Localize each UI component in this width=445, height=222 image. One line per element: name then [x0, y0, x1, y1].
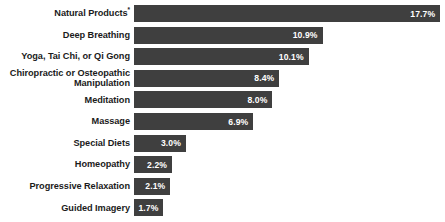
bar-category-label: Homeopathy [0, 159, 130, 169]
bar-row: Yoga, Tai Chi, or Qi Gong10.1% [0, 48, 445, 65]
bar-row: Special Diets3.0% [0, 135, 445, 152]
bar-track: 2.1% [134, 178, 170, 195]
bar-track: 17.7% [134, 5, 440, 22]
bar: 8.4% [134, 70, 279, 87]
bar: 17.7% [134, 5, 440, 22]
bar-category-label: Special Diets [0, 138, 130, 148]
bar-row: Guided Imagery1.7% [0, 199, 445, 216]
bar: 10.9% [134, 27, 323, 44]
bar: 3.0% [134, 135, 186, 152]
bar-row: Chiropractic or Osteopathic Manipulation… [0, 70, 445, 87]
bar-row: Deep Breathing10.9% [0, 27, 445, 44]
bar-track: 8.0% [134, 91, 272, 108]
bar-value-label: 10.9% [293, 30, 323, 40]
bar-value-label: 17.7% [410, 9, 440, 19]
bar-row: Massage6.9% [0, 113, 445, 130]
bar-value-label: 8.0% [247, 95, 272, 105]
bar: 10.1% [134, 48, 309, 65]
bar-value-label: 6.9% [228, 117, 253, 127]
bar-track: 10.1% [134, 48, 309, 65]
bar-category-label: Yoga, Tai Chi, or Qi Gong [0, 51, 130, 61]
bar-value-label: 3.0% [161, 138, 186, 148]
bar-value-label: 2.1% [145, 181, 170, 191]
bar-track: 3.0% [134, 135, 186, 152]
footnote-marker: * [128, 6, 130, 13]
bar-value-label: 1.7% [138, 203, 163, 213]
bar-value-label: 10.1% [279, 52, 309, 62]
bar-row: Homeopathy2.2% [0, 156, 445, 173]
bar-category-label: Guided Imagery [0, 203, 130, 213]
bar: 2.1% [134, 178, 170, 195]
bar-track: 8.4% [134, 70, 279, 87]
bar-category-label: Deep Breathing [0, 30, 130, 40]
bar-row: Progressive Relaxation2.1% [0, 178, 445, 195]
bar: 8.0% [134, 91, 272, 108]
horizontal-bar-chart: Natural Products*17.7%Deep Breathing10.9… [0, 0, 445, 222]
bar-track: 10.9% [134, 27, 323, 44]
bar: 1.7% [134, 199, 163, 216]
bar-value-label: 2.2% [147, 160, 172, 170]
bar-category-label: Natural Products* [0, 8, 130, 18]
bar-row: Meditation8.0% [0, 91, 445, 108]
bar-track: 2.2% [134, 156, 172, 173]
bar-row: Natural Products*17.7% [0, 5, 445, 22]
bar-value-label: 8.4% [254, 73, 279, 83]
bar-category-label: Meditation [0, 95, 130, 105]
bar: 6.9% [134, 113, 253, 130]
bar-category-label-text: Natural Products [54, 8, 127, 18]
bar-track: 6.9% [134, 113, 253, 130]
bar: 2.2% [134, 156, 172, 173]
bar-category-label: Massage [0, 116, 130, 126]
bar-track: 1.7% [134, 199, 163, 216]
bar-category-label: Progressive Relaxation [0, 181, 130, 191]
bar-category-label: Chiropractic or Osteopathic Manipulation [0, 68, 130, 89]
